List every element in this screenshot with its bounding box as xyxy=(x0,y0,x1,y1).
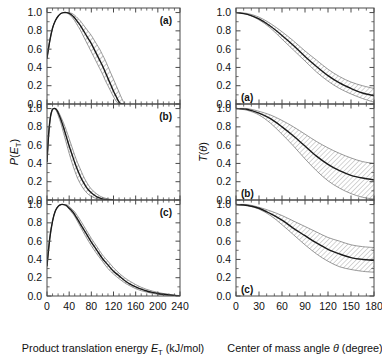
y-tick-label: 0.8 xyxy=(216,120,231,132)
right-panel-label-b: (b) xyxy=(241,188,254,199)
y-tick-label: 0.6 xyxy=(216,139,231,151)
two-column-plot-figure: 0.00.20.40.60.81.00.00.20.40.60.81.00.00… xyxy=(0,0,382,362)
x-tick-label: 120 xyxy=(105,300,123,312)
y-tick-label: 0.8 xyxy=(27,216,42,228)
left-panel-b-plot xyxy=(47,108,114,200)
x-tick-label: 120 xyxy=(319,300,337,312)
left-panel-label-c: (c) xyxy=(160,207,172,218)
figure-container: 0.00.20.40.60.81.00.00.20.40.60.81.00.00… xyxy=(0,0,382,362)
right-x-tick-labels: 0306090120150180 xyxy=(233,300,382,312)
x-tick-label: 160 xyxy=(127,300,145,312)
y-tick-label: 0.2 xyxy=(27,271,42,283)
best-fit-curve xyxy=(47,108,114,200)
best-fit-curve xyxy=(47,204,180,295)
y-tick-label: 0.8 xyxy=(216,216,231,228)
uncertainty-band xyxy=(47,204,180,296)
right-panel-label-c: (c) xyxy=(241,284,253,295)
right-x-axis-title: Center of mass angle θ (degree) xyxy=(227,342,382,354)
y-tick-label: 1.0 xyxy=(27,6,42,18)
lower-bound-curve xyxy=(47,204,180,296)
x-tick-label: 60 xyxy=(276,300,288,312)
svg-text:P(ET): P(ET) xyxy=(8,139,23,165)
plot-data-layer xyxy=(47,12,374,296)
right-ylabel-paren-close: ) xyxy=(197,142,209,146)
y-tick-label: 0.4 xyxy=(27,253,42,265)
y-tick-label: 1.0 xyxy=(27,198,42,210)
y-tick-label: 0.6 xyxy=(27,235,42,247)
left-panel-label-b: (b) xyxy=(159,111,172,122)
right-xlabel-units: (degree) xyxy=(339,342,382,354)
right-panel-b-plot xyxy=(236,108,374,199)
x-tick-label: 240 xyxy=(171,300,189,312)
y-tick-label: 0.2 xyxy=(216,175,231,187)
upper-bound-curve xyxy=(47,204,180,295)
y-tick-label: 0.8 xyxy=(27,120,42,132)
right-xlabel-text: Center of mass angle xyxy=(227,342,333,354)
y-tick-label: 0.8 xyxy=(27,24,42,36)
right-y-axis-title: T(θ) xyxy=(197,142,209,162)
x-tick-label: 0 xyxy=(44,300,50,312)
y-tick-label: 0.2 xyxy=(27,175,42,187)
y-tick-label: 0.4 xyxy=(216,61,231,73)
y-tick-label: 0.2 xyxy=(27,79,42,91)
best-fit-curve xyxy=(47,12,125,104)
uncertainty-band xyxy=(236,204,374,272)
left-xlabel-units: (kJ/mol) xyxy=(163,342,204,354)
right-panel-c-plot xyxy=(236,204,374,272)
y-tick-label: 1.0 xyxy=(216,198,231,210)
upper-bound-curve xyxy=(236,13,374,89)
left-y-axis-title: P(ET) xyxy=(8,139,23,165)
y-tick-label: 1.0 xyxy=(216,102,231,114)
y-tick-label: 0.4 xyxy=(216,253,231,265)
x-tick-label: 180 xyxy=(365,300,382,312)
lower-bound-curve xyxy=(47,109,114,200)
x-tick-label: 40 xyxy=(63,300,75,312)
left-xlabel-text: Product translation energy xyxy=(22,342,151,354)
left-panel-c-plot xyxy=(47,204,180,296)
left-x-tick-labels: 04080120160200240 xyxy=(44,300,189,312)
right-y-tick-labels: 0.00.20.40.60.81.00.00.20.40.60.81.00.00… xyxy=(216,6,231,301)
y-tick-label: 0.6 xyxy=(27,139,42,151)
x-tick-label: 150 xyxy=(342,300,360,312)
left-ylabel-paren-close: ) xyxy=(8,139,20,143)
left-panel-a-plot xyxy=(47,12,125,104)
y-tick-label: 1.0 xyxy=(27,102,42,114)
uncertainty-band xyxy=(236,108,374,199)
y-tick-label: 0.6 xyxy=(216,43,231,55)
y-tick-label: 0.2 xyxy=(216,271,231,283)
svg-text:T(θ): T(θ) xyxy=(197,142,209,162)
upper-bound-curve xyxy=(47,108,114,199)
x-tick-label: 80 xyxy=(85,300,97,312)
left-y-tick-labels: 0.00.20.40.60.81.00.00.20.40.60.81.00.00… xyxy=(27,6,42,301)
uncertainty-band xyxy=(47,108,114,200)
y-tick-label: 0.2 xyxy=(216,79,231,91)
y-tick-label: 0.0 xyxy=(27,290,42,302)
y-tick-label: 0.6 xyxy=(27,43,42,55)
right-panel-a-plot xyxy=(236,13,374,103)
x-tick-label: 90 xyxy=(299,300,311,312)
left-axis-ticks xyxy=(47,8,180,296)
y-tick-label: 1.0 xyxy=(216,6,231,18)
y-tick-label: 0.4 xyxy=(27,157,42,169)
y-tick-label: 0.4 xyxy=(27,61,42,73)
y-tick-label: 0.6 xyxy=(216,235,231,247)
left-x-axis-title: Product translation energy ET (kJ/mol) xyxy=(22,342,204,357)
y-tick-label: 0.4 xyxy=(216,157,231,169)
y-tick-label: 0.0 xyxy=(216,290,231,302)
x-tick-label: 30 xyxy=(253,300,265,312)
x-tick-label: 0 xyxy=(233,300,239,312)
left-panel-label-a: (a) xyxy=(160,15,172,26)
right-panel-label-a: (a) xyxy=(241,92,253,103)
y-tick-label: 0.8 xyxy=(216,24,231,36)
x-tick-label: 200 xyxy=(149,300,167,312)
